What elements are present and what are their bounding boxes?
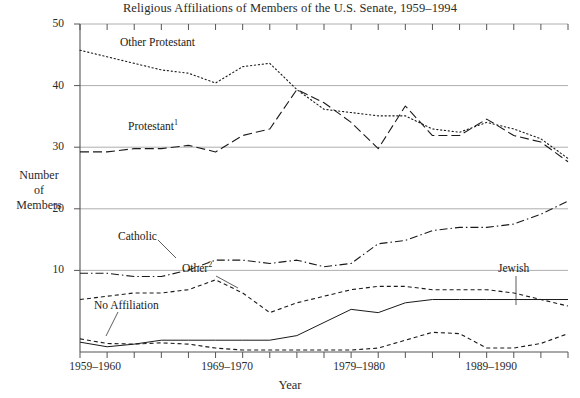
ytick-label-40: 40 <box>38 79 64 91</box>
ytick-label-30: 30 <box>38 140 64 152</box>
ytick-label-10: 10 <box>38 263 64 275</box>
y-axis-title-line-3: Members <box>2 198 76 213</box>
series-label-catholic: Catholic <box>118 230 157 242</box>
series-line-other-protestant <box>80 50 568 158</box>
series-label-other-footnote: 2 <box>208 260 212 269</box>
series-label-no-affiliation: No Affiliation <box>94 299 159 311</box>
ytick-label-50: 50 <box>38 17 64 29</box>
annotation-leaders <box>106 240 516 336</box>
chart-page: Religious Affiliations of Members of the… <box>0 0 580 398</box>
y-tick-marks <box>74 24 80 270</box>
series-label-other-protestant: Other Protestant <box>120 36 195 48</box>
chart-plot-area <box>0 0 580 398</box>
xtick-label-1989-1990: 1989–1990 <box>446 360 536 372</box>
series-label-other: Other2 <box>182 260 212 274</box>
series-label-protestant: Protestant1 <box>128 118 178 132</box>
xtick-label-1959-1960: 1959–1960 <box>50 360 140 372</box>
xtick-label-1969-1970: 1969–1970 <box>182 360 272 372</box>
y-axis-title-line-1: Number <box>2 168 76 183</box>
y-axis-title: Number of Members <box>2 168 76 213</box>
series-label-jewish: Jewish <box>498 262 529 274</box>
series-label-other-text: Other <box>182 262 208 274</box>
y-axis-title-line-2: of <box>2 183 76 198</box>
leader-catholic <box>158 240 176 258</box>
xtick-label-1979-1980: 1979–1980 <box>314 360 404 372</box>
leader-no-affiliation <box>106 312 118 336</box>
series-label-protestant-footnote: 1 <box>174 118 178 127</box>
x-axis-title: Year <box>0 378 580 393</box>
series-label-protestant-text: Protestant <box>128 120 174 132</box>
